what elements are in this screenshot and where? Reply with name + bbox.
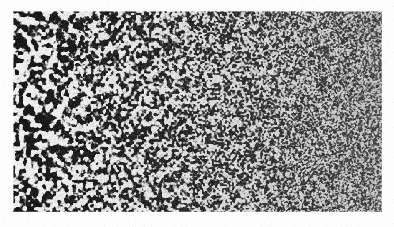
turing-pattern-plate: [13, 11, 382, 212]
figure-root: [0, 0, 394, 227]
